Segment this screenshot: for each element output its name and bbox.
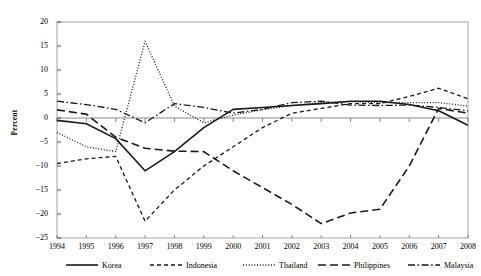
legend-label: Indonesia [186,261,217,270]
series-line-thailand [57,41,468,151]
plot-frame [57,22,468,238]
legend-label: Philippines [354,261,390,270]
legend-item-malaysia[interactable]: Malaysia [408,258,473,272]
legend-item-korea[interactable]: Korea [66,258,122,272]
series-line-philippines [57,108,468,223]
legend-swatch-thailand [243,261,275,269]
legend-swatch-indonesia [150,261,182,269]
legend-label: Korea [102,261,122,270]
legend-item-indonesia[interactable]: Indonesia [150,258,217,272]
series-line-korea [57,101,468,171]
legend-label: Thailand [279,261,307,270]
legend-swatch-korea [66,261,98,269]
legend-swatch-philippines [318,261,350,269]
legend-item-thailand[interactable]: Thailand [243,258,307,272]
chart-legend: KoreaIndonesiaThailandPhilippinesMalaysi… [0,258,475,274]
legend-swatch-malaysia [408,261,440,269]
legend-label: Malaysia [444,261,473,270]
legend-item-philippines[interactable]: Philippines [318,258,390,272]
